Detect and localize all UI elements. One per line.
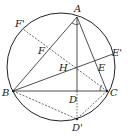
label-d: D	[68, 94, 77, 105]
label-h: H	[58, 62, 68, 73]
label-f: F	[37, 45, 46, 56]
point-c	[106, 90, 108, 92]
point-d-prime	[76, 118, 78, 120]
point-b	[12, 90, 14, 92]
angle-mark-a	[72, 23, 79, 25]
label-f-prime: F'	[14, 18, 25, 29]
label-e-prime: E'	[111, 47, 122, 58]
geometry-diagram: A B C D E F H D' E' F'	[0, 0, 128, 136]
label-d-prime: D'	[71, 122, 83, 133]
label-a: A	[73, 3, 81, 14]
label-c: C	[110, 87, 118, 98]
label-e: E	[97, 62, 106, 73]
segment-cd-prime	[77, 91, 107, 119]
label-b: B	[1, 87, 9, 98]
